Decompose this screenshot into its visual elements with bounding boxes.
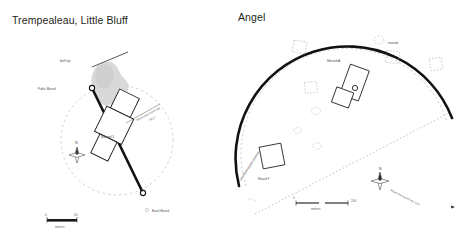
panel-angel: Angel Late Mississippian palisade moun xyxy=(233,0,466,237)
label-north-right: N xyxy=(379,167,382,171)
angel-site-map: Late Mississippian palisade mounds Mound… xyxy=(233,0,466,237)
label-mound-1: Mound 1 xyxy=(101,135,114,139)
mound-f-platform xyxy=(259,143,285,169)
label-mound-a: Mound A xyxy=(327,59,341,63)
compass-rose-right: N xyxy=(371,167,389,190)
mound-outline-c1 xyxy=(312,107,321,114)
scale-bar-fill xyxy=(47,219,77,222)
scale-label-units: meters xyxy=(55,225,65,229)
scale-label-units-right: meters xyxy=(311,207,321,211)
mound-outline-n1 xyxy=(292,40,307,54)
alignment-annotation: Moon max north rise 52.1° xyxy=(136,106,164,127)
scale-bar-right: 0 200 meters xyxy=(293,196,356,211)
mound-a-group xyxy=(331,62,369,110)
trempealeau-site-map: bluff top Public Mound Mound 1 Moon max … xyxy=(0,0,233,237)
label-mounds: mounds xyxy=(388,41,399,45)
alignment-arrow-head xyxy=(451,205,455,208)
mound-outline-n2 xyxy=(304,81,317,93)
scale-bar-left: 0 50 meters xyxy=(45,213,78,229)
compass-rose-left: N xyxy=(69,141,85,163)
panel-trempealeau: Trempealeau, Little Bluff bluff top Publ… xyxy=(0,0,233,237)
label-bluff-top: bluff top xyxy=(60,59,71,63)
mound-outline-e xyxy=(429,57,443,71)
scale-label-max-right: 200 xyxy=(351,199,356,203)
mound-outline-sw xyxy=(248,199,256,202)
mound-outline-ne-oval xyxy=(374,36,384,44)
scale-label-min: 0 xyxy=(45,213,47,217)
moon-alignment-annotation: Moon min south rise 114° xyxy=(390,188,421,206)
mound-outline-c3 xyxy=(293,127,302,134)
label-mound-f: Mound F xyxy=(258,177,270,181)
burial-mound-symbol xyxy=(145,208,148,211)
label-alignment-azimuth: 52.1° xyxy=(148,115,156,122)
scale-label-min-right: 0 xyxy=(293,196,295,200)
scale-label-max: 50 xyxy=(74,213,78,217)
burial-mound-marker xyxy=(140,190,145,195)
public-mound-marker xyxy=(89,85,94,90)
label-moon-alignment: Moon min south rise 114° xyxy=(390,188,421,206)
label-burial-mound: Burial Mound xyxy=(152,209,169,213)
mound-outline-c2 xyxy=(313,143,321,150)
label-north-left: N xyxy=(75,141,78,145)
mound-a-marker xyxy=(352,85,357,90)
label-public-mound: Public Mound xyxy=(38,87,56,91)
